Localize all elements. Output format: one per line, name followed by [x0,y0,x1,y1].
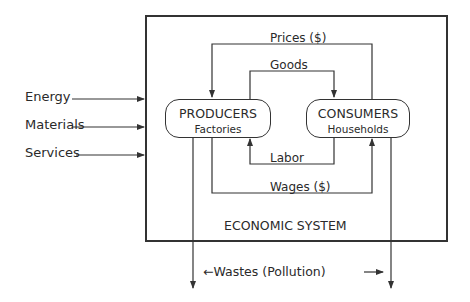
consumers-title: CONSUMERS [307,106,409,121]
consumers-node: CONSUMERS Households [306,99,410,138]
producers-subtitle: Factories [166,123,270,135]
goods-label: Goods [270,59,308,71]
input-label-energy: Energy [25,90,71,103]
consumers-subtitle: Households [307,123,409,135]
producers-title: PRODUCERS [166,106,270,121]
input-label-services: Services [25,146,80,159]
producers-node: PRODUCERS Factories [165,99,271,138]
wastes-label: ←Wastes (Pollution) [203,266,326,279]
prices-label: Prices ($) [270,32,326,44]
economic-system-label: ECONOMIC SYSTEM [224,220,347,233]
goods-flow [250,71,334,99]
input-label-materials: Materials [25,118,85,131]
labor-label: Labor [270,152,304,164]
wages-label: Wages ($) [270,181,331,193]
